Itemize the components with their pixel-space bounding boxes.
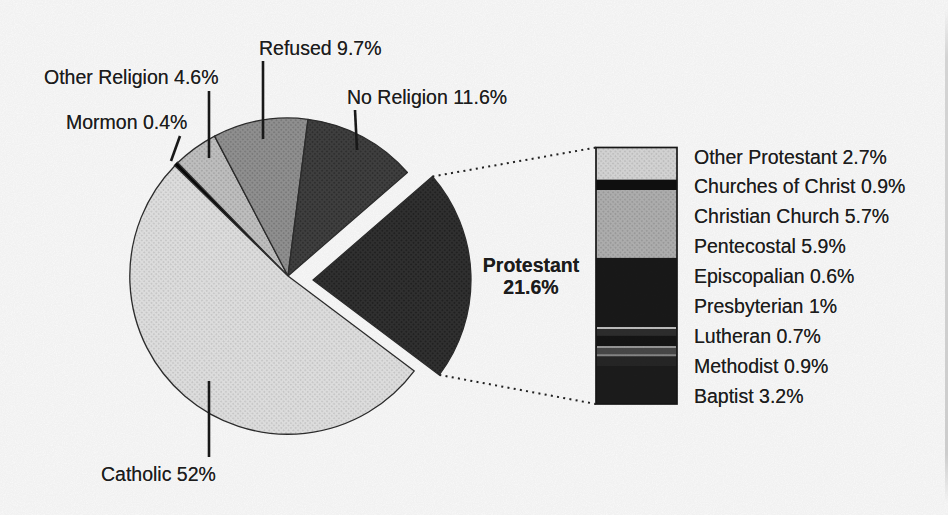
bar-segment-episcopalian	[596, 328, 677, 335]
label-presbyterian: Presbyterian 1%	[694, 296, 837, 317]
label-protestant-value: 21.6%	[441, 277, 621, 299]
label-other-religion: Other Religion 4.6%	[44, 67, 219, 88]
bar-segment-baptist	[596, 366, 677, 404]
bar-segment-churches-of-christ	[596, 180, 677, 191]
bar-segment-methodist	[596, 355, 677, 366]
label-lutheran: Lutheran 0.7%	[694, 326, 821, 347]
label-christian-church: Christian Church 5.7%	[694, 206, 889, 227]
connector-dotted-top	[432, 148, 596, 177]
connector-dotted-bottom	[439, 375, 596, 404]
label-catholic: Catholic 52%	[101, 464, 216, 485]
bar-segment-christian-church	[596, 190, 677, 258]
figure-canvas: Mormon 0.4% Other Religion 4.6% Refused …	[0, 0, 948, 515]
label-protestant-name: Protestant	[441, 255, 621, 277]
label-no-religion: No Religion 11.6%	[347, 87, 507, 108]
bar-segment-lutheran	[596, 347, 677, 355]
label-pentecostal: Pentecostal 5.9%	[694, 236, 846, 257]
label-churches-of-christ: Churches of Christ 0.9%	[694, 176, 905, 197]
bar-segment-presbyterian	[596, 335, 677, 347]
label-protestant: Protestant 21.6%	[441, 255, 621, 298]
label-refused: Refused 9.7%	[259, 38, 382, 59]
label-episcopalian: Episcopalian 0.6%	[694, 266, 854, 287]
label-other-protestant: Other Protestant 2.7%	[694, 147, 887, 168]
leader-line-mormon	[171, 136, 180, 161]
label-mormon: Mormon 0.4%	[66, 112, 187, 133]
label-methodist: Methodist 0.9%	[694, 356, 828, 377]
label-baptist: Baptist 3.2%	[694, 386, 803, 407]
bar-segment-other-protestant	[596, 148, 677, 180]
